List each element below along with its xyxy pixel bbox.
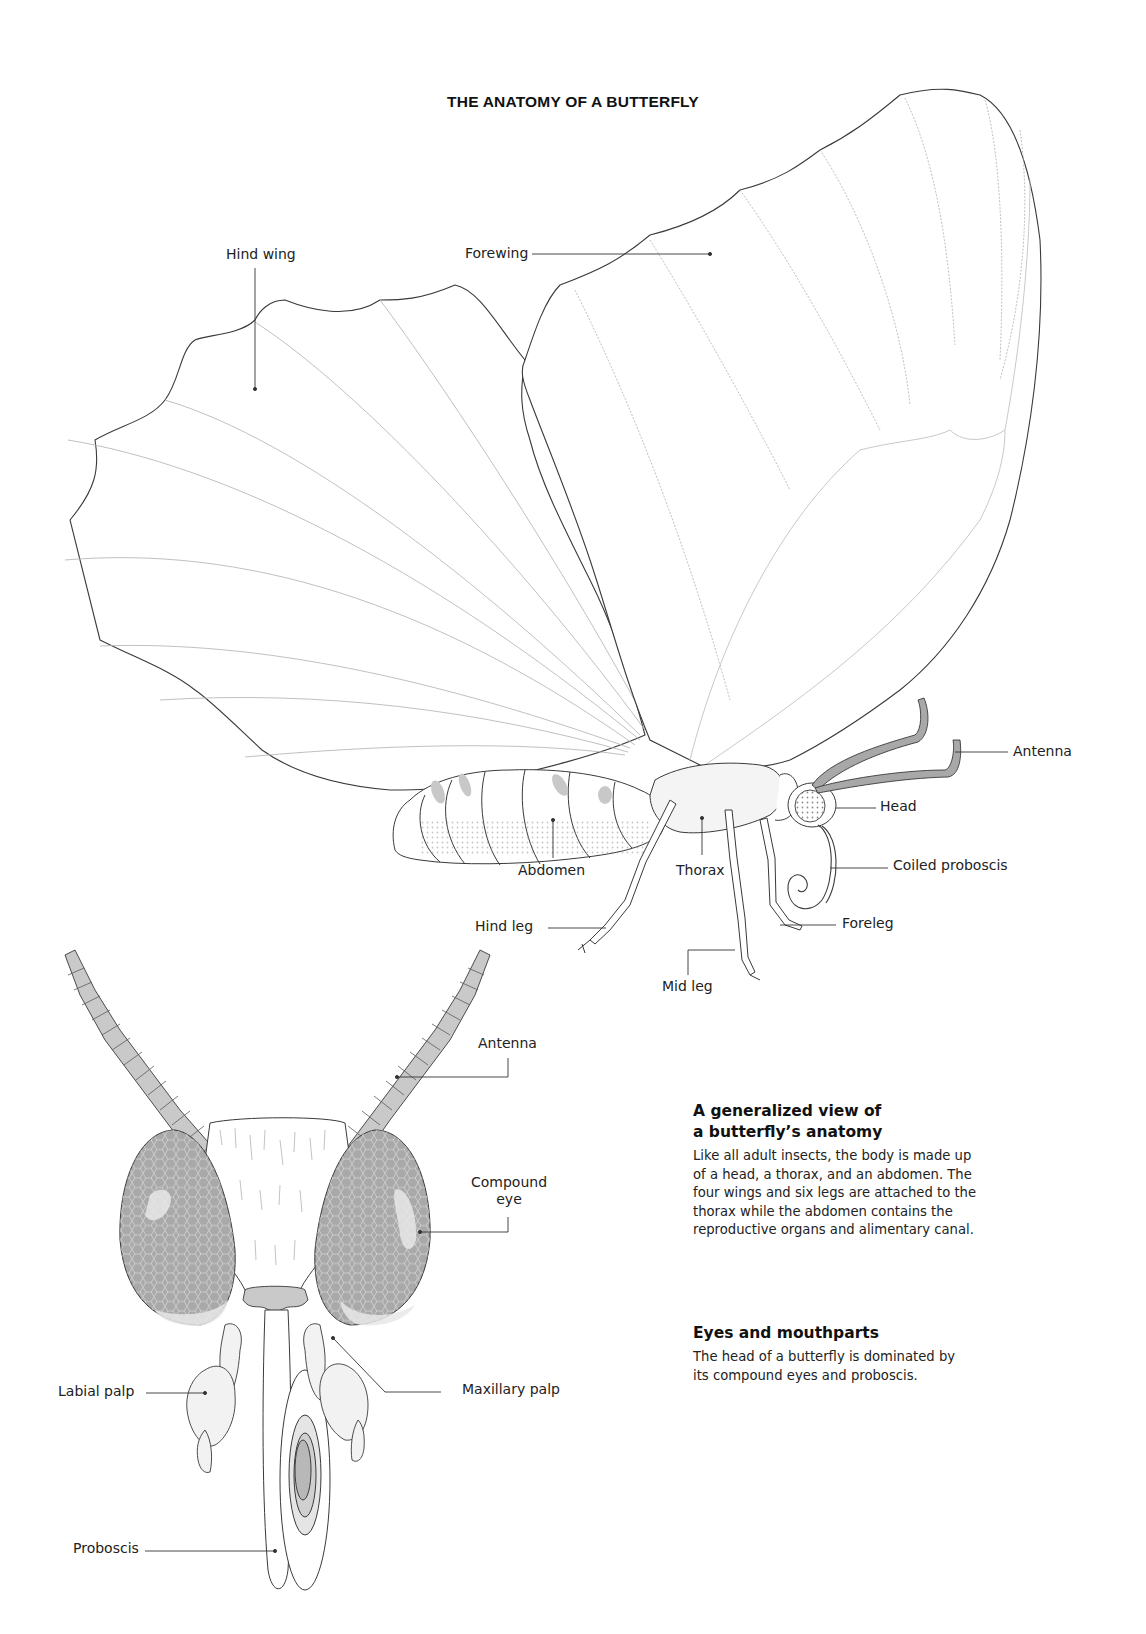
- section-heading: Eyes and mouthparts: [693, 1323, 1013, 1344]
- label-hind-leg: Hind leg: [475, 918, 533, 935]
- section-body: Like all adult insects, the body is made…: [693, 1147, 983, 1240]
- section-generalized-view: A generalized view of a butterfly’s anat…: [693, 1101, 1013, 1240]
- label-mid-leg: Mid leg: [662, 978, 713, 995]
- clypeus: [243, 1286, 308, 1311]
- labial-palp-left: [187, 1324, 242, 1473]
- label-maxillary-palp: Maxillary palp: [462, 1381, 560, 1398]
- label-antenna-side: Antenna: [1013, 743, 1072, 760]
- label-proboscis: Proboscis: [73, 1540, 139, 1557]
- thorax: [650, 763, 798, 833]
- section-heading: A generalized view of a butterfly’s anat…: [693, 1101, 1013, 1143]
- label-abdomen: Abdomen: [518, 862, 585, 879]
- heading-line-2: a butterfly’s anatomy: [693, 1123, 882, 1141]
- label-forewing: Forewing: [465, 245, 528, 262]
- label-coiled-proboscis: Coiled proboscis: [893, 857, 1008, 874]
- coiled-proboscis: [788, 825, 836, 909]
- abdomen: [393, 770, 665, 865]
- label-compound-eye-line1: Compound: [466, 1174, 552, 1191]
- heading-line-1: A generalized view of: [693, 1102, 881, 1120]
- label-head: Head: [880, 798, 917, 815]
- label-labial-palp: Labial palp: [58, 1383, 134, 1400]
- label-antenna-front: Antenna: [478, 1035, 537, 1052]
- label-compound-eye-line2: eye: [466, 1191, 552, 1208]
- label-thorax: Thorax: [676, 862, 725, 879]
- label-hind-wing: Hind wing: [226, 246, 296, 263]
- label-compound-eye: Compound eye: [466, 1174, 552, 1208]
- section-eyes-mouthparts: Eyes and mouthparts The head of a butter…: [693, 1323, 1013, 1385]
- label-foreleg: Foreleg: [842, 915, 894, 932]
- section-body: The head of a butterfly is dominated by …: [693, 1348, 963, 1385]
